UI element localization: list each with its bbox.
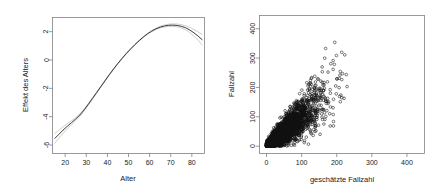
scatter-point: [329, 88, 332, 91]
right-x-tick-label: 100: [296, 159, 308, 166]
right-x-tick-label: 400: [401, 159, 413, 166]
right-y-tick-label: 100: [249, 111, 256, 123]
scatter-point: [290, 144, 293, 147]
left-x-tick-label: 50: [125, 159, 133, 166]
scatter-point: [319, 133, 322, 136]
left-x-axis-title: Alter: [120, 174, 136, 183]
scatter-point: [333, 63, 336, 66]
scatter-point: [328, 112, 331, 115]
scatter-point: [329, 106, 332, 109]
left-y-tick-label: -6: [43, 142, 50, 148]
smooth-effect-curve: [55, 25, 203, 138]
scatter-point: [343, 54, 346, 57]
left-y-tick-label: 2: [43, 30, 50, 34]
scatter-point: [339, 74, 342, 77]
left-y-tick-label: -2: [43, 85, 50, 91]
right-y-tick-label: 300: [249, 52, 256, 64]
scatter-point: [326, 81, 329, 84]
left-x-tick-label: 60: [146, 159, 154, 166]
scatter-point: [321, 70, 324, 73]
right-y-tick-label: 0: [249, 144, 256, 148]
right-plot-svg: 0100200300400 0100200300400 geschätzte F…: [220, 0, 441, 195]
figure-container: 20-2-4-6 20304050607080 Alter Effekt des…: [0, 0, 441, 195]
left-x-tick-label: 40: [103, 159, 111, 166]
scatter-point: [332, 98, 335, 101]
scatter-point: [317, 124, 320, 127]
scatter-point: [339, 70, 342, 73]
scatter-point: [341, 72, 344, 75]
scatter-point: [312, 102, 315, 105]
scatter-point: [314, 81, 317, 84]
scatter-points: [265, 41, 348, 147]
scatter-point: [323, 111, 326, 114]
scatter-point: [325, 115, 328, 118]
scatter-point: [313, 75, 316, 78]
scatter-point: [327, 71, 330, 74]
left-y-axis-title: Effekt des Alters: [21, 58, 30, 112]
scatter-point: [335, 92, 338, 95]
scatter-point: [317, 78, 320, 81]
scatter-point: [334, 85, 337, 88]
scatter-point: [303, 92, 306, 95]
scatter-point: [339, 100, 342, 103]
left-y-tick-label: 0: [43, 58, 50, 62]
panel-right-scatter-plot: 0100200300400 0100200300400 geschätzte F…: [220, 0, 441, 195]
scatter-point: [323, 123, 326, 126]
scatter-point: [340, 78, 343, 81]
left-x-axis-ticks: 20304050607080: [61, 154, 196, 166]
right-y-axis-title: Fallzahl: [227, 71, 236, 97]
scatter-point: [332, 59, 335, 62]
scatter-point: [329, 125, 332, 128]
left-x-tick-label: 70: [167, 159, 175, 166]
confidence-band-lower: [55, 26, 203, 143]
scatter-point: [332, 120, 335, 123]
right-x-tick-label: 200: [331, 159, 343, 166]
scatter-point: [332, 106, 335, 109]
right-y-axis-ticks: 0100200300400: [249, 23, 260, 148]
left-y-axis-ticks: 20-2-4-6: [43, 30, 53, 148]
right-x-tick-label: 300: [366, 159, 378, 166]
confidence-band-upper: [55, 24, 203, 134]
scatter-point: [301, 89, 304, 92]
right-y-tick-label: 400: [249, 23, 256, 35]
scatter-point: [320, 113, 323, 116]
left-y-tick-label: -4: [43, 113, 50, 119]
scatter-point: [332, 113, 335, 116]
scatter-point: [329, 92, 332, 95]
scatter-point: [323, 57, 326, 60]
right-x-axis-ticks: 0100200300400: [265, 154, 413, 166]
scatter-point: [340, 51, 343, 54]
scatter-point: [307, 91, 310, 94]
left-plot-frame: [53, 18, 205, 154]
left-plot-svg: 20-2-4-6 20304050607080 Alter Effekt des…: [0, 0, 220, 195]
scatter-point: [303, 141, 306, 144]
scatter-point: [305, 136, 308, 139]
panel-left-effect-plot: 20-2-4-6 20304050607080 Alter Effekt des…: [0, 0, 220, 195]
scatter-point: [324, 47, 327, 50]
left-x-tick-label: 80: [188, 159, 196, 166]
scatter-point: [335, 54, 338, 57]
scatter-point: [298, 92, 301, 95]
scatter-point: [321, 66, 324, 69]
left-x-tick-label: 30: [82, 159, 90, 166]
scatter-point: [307, 143, 310, 146]
scatter-point: [332, 125, 335, 128]
scatter-point: [326, 109, 329, 112]
scatter-point: [329, 62, 332, 65]
scatter-point: [320, 104, 323, 107]
right-x-tick-label: 0: [265, 159, 269, 166]
scatter-point: [332, 68, 335, 71]
right-x-axis-title: geschätzte Fallzahl: [310, 175, 375, 184]
right-y-tick-label: 200: [249, 81, 256, 93]
left-x-tick-label: 20: [61, 159, 69, 166]
scatter-point: [346, 85, 349, 88]
scatter-point: [284, 109, 287, 112]
scatter-point: [312, 134, 315, 137]
scatter-point: [333, 41, 336, 44]
scatter-point: [345, 73, 348, 76]
scatter-point: [338, 86, 341, 89]
